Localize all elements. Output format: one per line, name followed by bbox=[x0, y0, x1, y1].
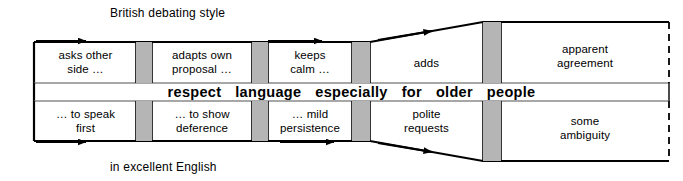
bottom-stage-1: … to speak first bbox=[36, 103, 135, 141]
bottom-arrow-3 bbox=[378, 143, 432, 152]
bottom-stage-1-line2: first bbox=[36, 122, 135, 136]
bottom-stage-1-line1: … to speak bbox=[36, 108, 135, 122]
bottom-outcome: some ambiguity bbox=[502, 110, 668, 148]
middle-band-word-5: older bbox=[436, 84, 473, 100]
bottom-gate-3 bbox=[352, 101, 370, 141]
middle-band-word-1: respect bbox=[168, 84, 222, 100]
middle-band-word-2: language bbox=[235, 84, 301, 100]
top-stage-3-line2: calm … bbox=[269, 63, 351, 77]
bottom-stage-4: polite requests bbox=[371, 103, 482, 141]
diagram-footer: in excellent English bbox=[110, 160, 217, 174]
bottom-gate-1 bbox=[136, 101, 152, 141]
top-stage-2-line1: adapts own bbox=[153, 49, 251, 63]
top-stage-1: asks other side … bbox=[36, 44, 135, 82]
bottom-stage-3-line1: … mild bbox=[268, 108, 352, 122]
top-stage-2: adapts own proposal … bbox=[153, 44, 251, 82]
top-gate-4 bbox=[483, 22, 501, 83]
top-stage-2-line2: proposal … bbox=[153, 63, 251, 77]
bottom-outcome-line2: ambiguity bbox=[502, 129, 668, 143]
bottom-stage-2-line1: … to show bbox=[153, 108, 251, 122]
top-stage-3-line1: keeps bbox=[269, 49, 351, 63]
top-arrow-3 bbox=[378, 31, 432, 40]
bottom-gate-2 bbox=[252, 101, 268, 141]
middle-band-word-3: especially bbox=[315, 84, 387, 100]
middle-band-word-4: for bbox=[402, 84, 422, 100]
bottom-stage-4-line2: requests bbox=[371, 122, 482, 136]
top-stage-1-line2: side … bbox=[36, 63, 135, 77]
top-stage-4-line1: adds bbox=[371, 57, 482, 71]
bottom-stage-3-line2: persistence bbox=[268, 122, 352, 136]
top-gate-2 bbox=[252, 42, 268, 83]
middle-band-word-6: people bbox=[487, 84, 536, 100]
top-gate-3 bbox=[352, 42, 370, 83]
top-outcome-line2: agreement bbox=[502, 57, 668, 71]
bottom-stage-3: … mild persistence bbox=[268, 103, 352, 141]
top-outcome: apparent agreement bbox=[502, 38, 668, 76]
bottom-stage-2: … to show deference bbox=[153, 103, 251, 141]
top-stage-1-line1: asks other bbox=[36, 49, 135, 63]
top-gate-1 bbox=[136, 42, 152, 83]
bottom-stage-2-line2: deference bbox=[153, 122, 251, 136]
middle-band: respect language especially for older pe… bbox=[34, 83, 669, 101]
diagram-title: British debating style bbox=[110, 6, 225, 20]
bottom-gate-4 bbox=[483, 101, 501, 161]
diagram-canvas: British debating style in excellent Engl… bbox=[0, 0, 683, 181]
top-stage-3: keeps calm … bbox=[269, 44, 351, 82]
bottom-outcome-line1: some bbox=[502, 115, 668, 129]
top-stage-4: adds bbox=[371, 48, 482, 80]
bottom-stage-4-line1: polite bbox=[371, 108, 482, 122]
top-outcome-line1: apparent bbox=[502, 43, 668, 57]
